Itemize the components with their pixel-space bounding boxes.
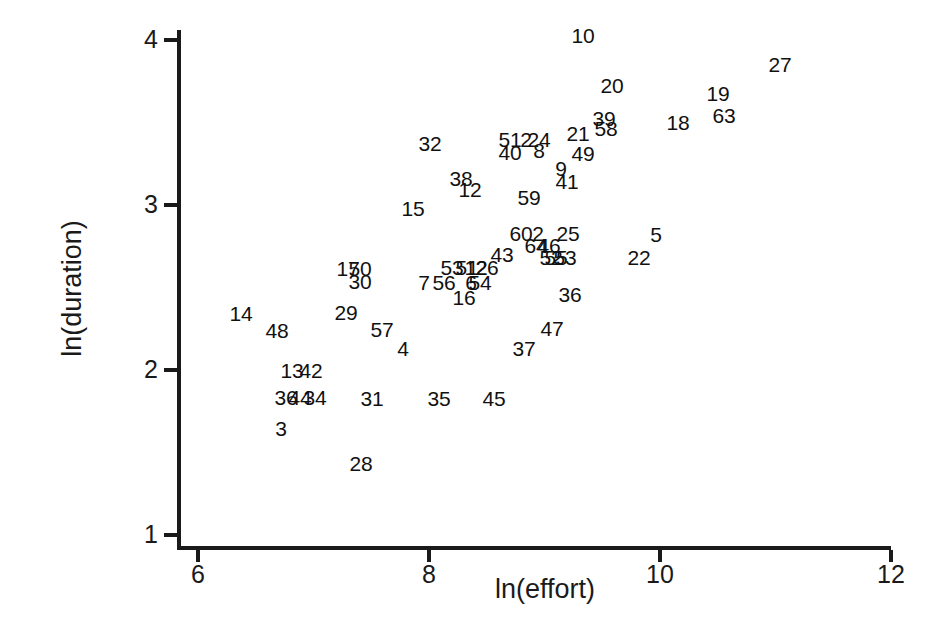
data-point-label: 16 xyxy=(453,287,476,308)
scatter-plot-figure: 4 3 2 1 6 8 10 12 ln(duration) ln(effort… xyxy=(0,0,926,620)
data-point-label: 42 xyxy=(300,360,323,381)
data-point-label: 58 xyxy=(595,118,618,139)
data-point-label: 29 xyxy=(335,302,358,323)
data-point-label: 10 xyxy=(572,25,595,46)
x-tick-label-12: 12 xyxy=(861,562,921,587)
data-point-label: 4 xyxy=(397,338,408,359)
y-tick-label-1: 1 xyxy=(118,522,158,547)
x-axis-title: ln(effort) xyxy=(425,576,665,603)
data-point-label: 41 xyxy=(556,171,579,192)
y-tick-mark-2 xyxy=(164,368,178,372)
y-tick-mark-3 xyxy=(164,203,178,207)
y-tick-mark-1 xyxy=(164,533,178,537)
y-axis-line xyxy=(177,30,181,550)
data-point-label: 48 xyxy=(266,320,289,341)
data-point-label: 30 xyxy=(349,271,372,292)
data-point-label: 40 xyxy=(499,142,522,163)
data-point-label: 19 xyxy=(707,83,730,104)
x-axis-line xyxy=(177,546,891,550)
data-point-label: 28 xyxy=(350,453,373,474)
data-point-label: 49 xyxy=(572,143,595,164)
data-point-label: 45 xyxy=(483,388,506,409)
y-tick-label-3: 3 xyxy=(118,192,158,217)
data-point-label: 8 xyxy=(533,140,544,161)
y-tick-mark-4 xyxy=(164,38,178,42)
data-point-label: 35 xyxy=(428,388,451,409)
data-point-label: 53 xyxy=(554,247,577,268)
data-point-label: 15 xyxy=(402,198,425,219)
data-point-label: 59 xyxy=(518,187,541,208)
data-point-label: 21 xyxy=(567,123,590,144)
data-point-label: 7 xyxy=(418,272,429,293)
data-point-label: 5 xyxy=(650,224,661,245)
y-tick-label-2: 2 xyxy=(118,357,158,382)
x-tick-label-6: 6 xyxy=(168,562,228,587)
data-point-label: 18 xyxy=(667,112,690,133)
data-point-label: 14 xyxy=(230,303,253,324)
data-point-label: 20 xyxy=(601,75,624,96)
data-point-label: 47 xyxy=(541,318,564,339)
data-point-label: 63 xyxy=(713,105,736,126)
data-point-label: 3 xyxy=(275,418,286,439)
y-tick-label-4: 4 xyxy=(118,27,158,52)
data-point-label: 36 xyxy=(559,284,582,305)
data-point-label: 32 xyxy=(419,133,442,154)
data-point-label: 27 xyxy=(769,54,792,75)
data-point-label: 31 xyxy=(361,388,384,409)
data-point-label: 12 xyxy=(459,179,482,200)
data-point-label: 57 xyxy=(371,319,394,340)
data-point-label: 22 xyxy=(628,247,651,268)
data-point-label: 37 xyxy=(513,338,536,359)
data-point-label: 34 xyxy=(304,387,327,408)
y-axis-title: ln(duration) xyxy=(59,169,86,409)
